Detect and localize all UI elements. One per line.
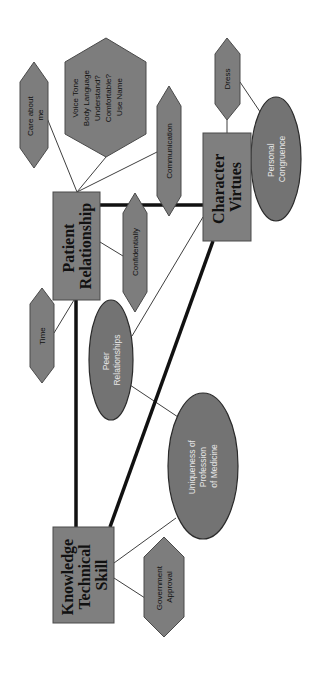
profession-label: Profession bbox=[198, 447, 208, 487]
svg-text:Time: Time bbox=[38, 327, 47, 345]
personal-label: Personal bbox=[266, 143, 276, 177]
technical-label: Technical bbox=[76, 544, 93, 610]
body-language-label: Body Language bbox=[82, 70, 91, 127]
hexagon-dress: Dress bbox=[215, 38, 240, 120]
comfortable-label: Comfortable? bbox=[104, 74, 113, 123]
character-label: Character bbox=[210, 154, 227, 224]
connector-knowledge-government bbox=[114, 578, 145, 598]
connector-patient-communication bbox=[77, 152, 157, 192]
svg-text:Uniqueness of Profession: Uniqueness of Profession of Medicine bbox=[187, 438, 219, 495]
use-name-label: Use Name bbox=[115, 78, 124, 116]
hexagon-time: Time bbox=[30, 288, 54, 383]
connector-patient-time bbox=[54, 300, 74, 333]
knowledge-label: Knowledge bbox=[59, 539, 77, 615]
connector-patient-voice bbox=[77, 157, 106, 192]
communication-label: Communication bbox=[165, 123, 174, 179]
hexagon-confidentially: Confidentially bbox=[123, 193, 147, 312]
congruence-label: Congruence bbox=[277, 136, 287, 183]
ellipse-peer-relationships: Peer Relationships bbox=[89, 300, 133, 420]
svg-text:Dress: Dress bbox=[223, 69, 232, 90]
government-label: Government bbox=[155, 565, 164, 610]
peer-label: Peer bbox=[101, 352, 111, 370]
dress-label: Dress bbox=[223, 69, 232, 90]
care-about-me-label: Care about bbox=[26, 96, 35, 136]
hexagon-government-approval: Government Approval bbox=[144, 537, 184, 637]
confidentially-label: Confidentially bbox=[131, 228, 140, 276]
svg-text:Personal Congruence: Personal Congruence bbox=[266, 136, 287, 183]
box-patient-relationship: Patient Relationship bbox=[53, 192, 100, 300]
hexagon-care-about-me: Care about me bbox=[20, 62, 48, 168]
relationships-label: Relationships bbox=[112, 334, 122, 385]
box-knowledge-technical-skill: Knowledge Technical Skill bbox=[53, 527, 114, 623]
care-about-me-label-2: me bbox=[36, 109, 45, 121]
hexagon-communication: Communication bbox=[157, 86, 181, 216]
svg-text:Confidentially: Confidentially bbox=[131, 228, 140, 276]
patient-label: Patient bbox=[60, 223, 77, 273]
relationship-label: Relationship bbox=[77, 203, 95, 289]
hexagon-voice: Voice Tone Body Language Understand? Com… bbox=[65, 38, 146, 157]
understand-label: Understand? bbox=[93, 75, 102, 121]
uniqueness-label: Uniqueness of bbox=[187, 439, 197, 494]
connector-patient-confidentially bbox=[100, 242, 123, 256]
virtues-label: Virtues bbox=[227, 162, 244, 212]
approval-label: Approval bbox=[165, 571, 174, 603]
svg-text:Communication: Communication bbox=[165, 123, 174, 179]
box-character-virtues: Character Virtues bbox=[203, 133, 251, 241]
ellipse-uniqueness: Uniqueness of Profession of Medicine bbox=[168, 393, 238, 539]
voice-tone-label: Voice Tone bbox=[71, 78, 80, 118]
of-medicine-label: of Medicine bbox=[209, 444, 219, 488]
time-label: Time bbox=[38, 327, 47, 345]
concept-diagram: Care about me Voice Tone Body Language U… bbox=[0, 0, 330, 673]
skill-label: Skill bbox=[93, 559, 110, 591]
ellipse-personal-congruence: Personal Congruence bbox=[251, 97, 301, 221]
